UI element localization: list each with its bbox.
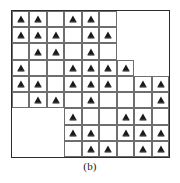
grid-cell-r6-c7 bbox=[117, 92, 134, 108]
grid-cell-r5-c7 bbox=[117, 76, 134, 92]
triangle-marker bbox=[16, 31, 25, 40]
grid-cell-r4-c5 bbox=[82, 60, 99, 76]
grid-cell-r7-c8 bbox=[134, 108, 152, 125]
grid-cell-r2-c1 bbox=[12, 27, 29, 43]
grid-cell-r1-c2 bbox=[29, 11, 47, 27]
grid-cell-r4-c2 bbox=[29, 60, 47, 76]
grid-cell-r3-c5 bbox=[82, 43, 99, 60]
grid-cell-r7-c6 bbox=[99, 108, 117, 125]
grid-cell-r5-c4 bbox=[64, 76, 82, 92]
triangle-marker bbox=[139, 145, 148, 154]
triangle-marker bbox=[34, 31, 43, 40]
grid-cell-r7-c9 bbox=[152, 108, 169, 125]
grid-cell-r4-c6 bbox=[99, 60, 117, 76]
triangle-marker bbox=[156, 129, 165, 138]
grid-cell-r5-c6 bbox=[99, 76, 117, 92]
triangle-marker bbox=[86, 129, 95, 138]
triangle-marker bbox=[86, 15, 95, 24]
grid-cell-r1-c1 bbox=[12, 11, 29, 27]
grid-cell-r6-c3 bbox=[47, 92, 64, 108]
triangle-marker bbox=[16, 64, 25, 73]
grid-cell-r5-c1 bbox=[12, 76, 29, 92]
triangle-marker bbox=[69, 64, 78, 73]
triangle-marker bbox=[34, 47, 43, 56]
triangle-marker bbox=[86, 64, 95, 73]
triangle-marker bbox=[104, 31, 113, 40]
grid-cell-r9-c7 bbox=[117, 141, 134, 157]
grid-cell-r8-c4 bbox=[64, 125, 82, 141]
grid-cell-r5-c3 bbox=[47, 76, 64, 92]
triangle-marker bbox=[16, 15, 25, 24]
triangle-marker bbox=[104, 80, 113, 89]
grid-cell-r7-c4 bbox=[64, 108, 82, 125]
triangle-marker bbox=[139, 80, 148, 89]
grid-cell-r7-c7 bbox=[117, 108, 134, 125]
grid-cell-r3-c2 bbox=[29, 43, 47, 60]
triangle-marker bbox=[86, 31, 95, 40]
grid-cell-r5-c5 bbox=[82, 76, 99, 92]
triangle-marker bbox=[86, 145, 95, 154]
grid-cell-r2-c6 bbox=[99, 27, 117, 43]
grid-cell-r6-c5 bbox=[82, 92, 99, 108]
triangle-marker bbox=[86, 47, 95, 56]
triangle-marker bbox=[156, 145, 165, 154]
grid-cell-r9-c9 bbox=[152, 141, 169, 157]
grid-cell-r4-c3 bbox=[47, 60, 64, 76]
triangle-marker bbox=[69, 129, 78, 138]
grid-cell-r2-c3 bbox=[47, 27, 64, 43]
triangle-marker bbox=[156, 80, 165, 89]
grid-cell-r1-c4 bbox=[64, 11, 82, 27]
grid-cell-r6-c9 bbox=[152, 92, 169, 108]
grid-cell-r7-c5 bbox=[82, 108, 99, 125]
grid-cell-r6-c8 bbox=[134, 92, 152, 108]
grid-cell-r4-c1 bbox=[12, 60, 29, 76]
triangle-marker bbox=[139, 112, 148, 121]
grid-cell-r9-c4 bbox=[64, 141, 82, 157]
triangle-marker bbox=[86, 96, 95, 105]
triangle-marker bbox=[34, 80, 43, 89]
triangle-marker bbox=[139, 129, 148, 138]
grid-cell-r1-c5 bbox=[82, 11, 99, 27]
grid-cell-r8-c5 bbox=[82, 125, 99, 141]
grid-cell-r3-c1 bbox=[12, 43, 29, 60]
grid-cell-r8-c7 bbox=[117, 125, 134, 141]
grid-cell-r4-c4 bbox=[64, 60, 82, 76]
figure-container: (b) bbox=[0, 0, 180, 183]
triangle-marker bbox=[69, 80, 78, 89]
grid-cell-r9-c6 bbox=[99, 141, 117, 157]
triangle-marker bbox=[51, 47, 60, 56]
triangle-marker bbox=[156, 96, 165, 105]
grid-cell-r5-c2 bbox=[29, 76, 47, 92]
grid-cell-r6-c1 bbox=[12, 92, 29, 108]
triangle-marker bbox=[104, 145, 113, 154]
grid-outer-frame bbox=[11, 10, 170, 158]
grid-cell-r9-c5 bbox=[82, 141, 99, 157]
triangle-marker bbox=[16, 80, 25, 89]
grid-cell-r8-c9 bbox=[152, 125, 169, 141]
grid-cell-r3-c3 bbox=[47, 43, 64, 60]
grid-cell-r8-c6 bbox=[99, 125, 117, 141]
triangle-marker bbox=[121, 129, 130, 138]
triangle-marker bbox=[121, 112, 130, 121]
grid-cell-r6-c2 bbox=[29, 92, 47, 108]
triangle-marker bbox=[86, 80, 95, 89]
triangle-marker bbox=[104, 64, 113, 73]
grid-cell-r1-c6 bbox=[99, 11, 117, 27]
grid-cell-r6-c6 bbox=[99, 92, 117, 108]
triangle-marker bbox=[34, 96, 43, 105]
triangle-marker bbox=[69, 112, 78, 121]
figure-caption: (b) bbox=[0, 160, 180, 172]
grid-cell-r1-c3 bbox=[47, 11, 64, 27]
grid-cell-r2-c2 bbox=[29, 27, 47, 43]
triangle-marker bbox=[51, 31, 60, 40]
triangle-marker bbox=[34, 15, 43, 24]
triangle-marker bbox=[69, 15, 78, 24]
grid-cell-r2-c5 bbox=[82, 27, 99, 43]
grid-cell-r6-c4 bbox=[64, 92, 82, 108]
grid-cell-r4-c7 bbox=[117, 60, 134, 76]
triangle-marker bbox=[121, 64, 130, 73]
grid-cell-r5-c9 bbox=[152, 76, 169, 92]
grid-cell-r3-c6 bbox=[99, 43, 117, 60]
grid-cell-layer bbox=[12, 11, 169, 157]
grid-cell-r8-c8 bbox=[134, 125, 152, 141]
